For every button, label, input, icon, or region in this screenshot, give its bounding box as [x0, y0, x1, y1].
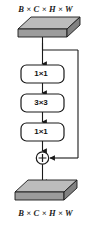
output-tensor-slab — [15, 180, 77, 200]
op-label-conv3: 1×1 — [21, 127, 61, 136]
residual-block-diagram: B × C × H × W 1×1 3×3 1×1 B × C × H × W — [0, 0, 91, 226]
output-slab-front-face — [15, 192, 64, 200]
op-label-conv1: 1×1 — [21, 69, 61, 78]
op-label-conv2: 3×3 — [21, 98, 61, 107]
output-tensor-label: B × C × H × W — [0, 208, 91, 218]
diagram-canvas — [0, 0, 91, 226]
input-tensor-slab — [18, 17, 80, 37]
input-slab-front-face — [18, 29, 67, 37]
input-tensor-label: B × C × H × W — [0, 4, 91, 14]
merge-node-add[interactable] — [36, 152, 48, 164]
